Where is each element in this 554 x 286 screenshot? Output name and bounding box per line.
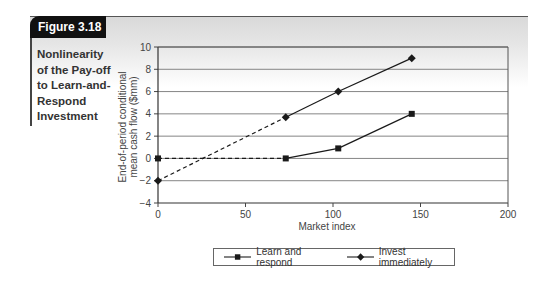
y-tick-label: 0 xyxy=(145,153,151,164)
square-marker-icon xyxy=(409,111,415,117)
diamond-marker-icon xyxy=(347,252,374,262)
series-segment xyxy=(286,148,339,158)
legend-label: Invest immediately xyxy=(379,246,454,268)
diamond-marker-icon xyxy=(334,88,342,96)
y-axis-label: mean cash flow ($mm) xyxy=(128,76,139,177)
diamond-marker-icon xyxy=(282,113,290,121)
x-tick-label: 50 xyxy=(240,209,252,220)
y-tick-label: 6 xyxy=(145,86,151,97)
square-marker-icon xyxy=(335,145,341,151)
diamond-marker-icon xyxy=(408,54,416,62)
square-marker-icon xyxy=(155,155,161,161)
legend-label: Learn and respond xyxy=(256,246,332,268)
series-segment xyxy=(338,114,412,149)
x-tick-label: 0 xyxy=(155,209,161,220)
square-marker-icon xyxy=(283,155,289,161)
line-chart: −4−20246810050100150200Market indexEnd-o… xyxy=(0,0,554,286)
x-tick-label: 100 xyxy=(325,209,342,220)
legend-item-learn-and-respond: Learn and respond xyxy=(224,246,333,268)
dashed-series-segment xyxy=(158,117,286,181)
y-tick-label: 8 xyxy=(145,64,151,75)
y-tick-label: 4 xyxy=(145,108,151,119)
y-tick-label: −2 xyxy=(140,175,152,186)
y-axis-label: End-of-period conditional xyxy=(117,71,128,182)
x-tick-label: 200 xyxy=(500,209,517,220)
y-tick-label: 10 xyxy=(140,42,152,53)
chart-legend: Learn and respond Invest immediately xyxy=(213,248,455,266)
diamond-marker-icon xyxy=(154,177,162,185)
y-tick-label: 2 xyxy=(145,131,151,142)
y-tick-label: −4 xyxy=(140,198,152,209)
legend-item-invest-immediately: Invest immediately xyxy=(347,246,454,268)
x-axis-label: Market index xyxy=(298,221,355,232)
x-tick-label: 150 xyxy=(412,209,429,220)
series-segment xyxy=(286,92,339,118)
square-marker-icon xyxy=(224,252,251,262)
series-segment xyxy=(338,58,412,91)
